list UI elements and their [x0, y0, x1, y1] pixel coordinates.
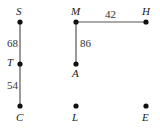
node-a	[73, 61, 78, 66]
node-c	[17, 103, 22, 108]
label-s: S	[16, 5, 22, 17]
weight-m-h: 42	[105, 8, 116, 20]
weight-s-t: 68	[7, 37, 19, 49]
label-l: L	[71, 111, 78, 123]
label-c: C	[16, 111, 24, 123]
node-m	[73, 19, 78, 24]
weight-t-c: 54	[7, 79, 19, 91]
node-s	[17, 19, 22, 24]
label-t: T	[7, 56, 14, 68]
node-t	[17, 61, 22, 66]
node-h	[143, 19, 148, 24]
graph-diagram: 68 54 86 42 S T C M A L H E	[0, 0, 160, 128]
node-e	[143, 103, 148, 108]
node-l	[73, 103, 78, 108]
label-m: M	[70, 5, 81, 17]
label-e: E	[141, 111, 149, 123]
label-h: H	[141, 5, 151, 17]
label-a: A	[71, 67, 79, 79]
weight-m-a: 86	[80, 37, 92, 49]
